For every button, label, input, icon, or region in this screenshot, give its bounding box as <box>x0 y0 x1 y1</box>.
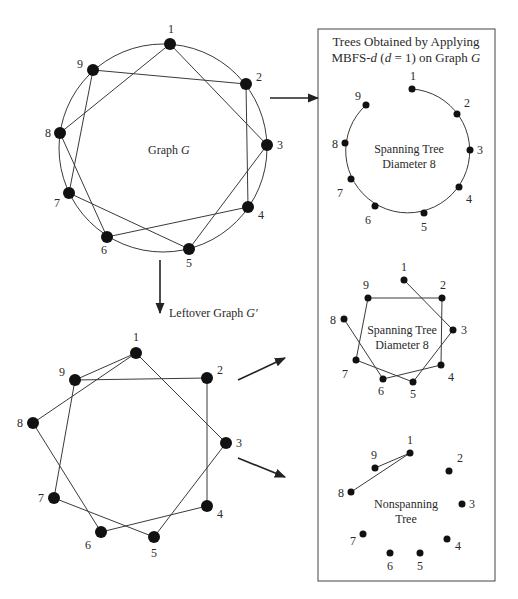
graph-g-node-label-2: 2 <box>256 70 262 84</box>
leftover-node-3 <box>220 437 232 449</box>
tree2-node-2 <box>439 295 446 302</box>
tree1-node-label-2: 2 <box>464 96 470 110</box>
tree2-node-label-7: 7 <box>342 367 348 381</box>
tree1-node-4 <box>456 184 463 191</box>
graph-g-node-label-6: 6 <box>101 243 107 257</box>
tree1-node-label-5: 5 <box>421 220 427 234</box>
leftover-node-label-3: 3 <box>236 436 242 450</box>
tree1-node-5 <box>421 210 428 217</box>
tree2-node-label-8: 8 <box>330 313 336 327</box>
tree1-node-label-8: 8 <box>332 137 338 151</box>
tree3-node-7 <box>360 531 367 538</box>
graph-g-edge-6-4 <box>107 207 248 237</box>
leftover-node-label-5: 5 <box>151 546 157 560</box>
graph-g-node-6 <box>101 231 113 243</box>
graph-g-node-9 <box>87 64 99 76</box>
graph-g-node-label-7: 7 <box>54 196 60 210</box>
tree2-node-label-4: 4 <box>448 370 454 384</box>
tree3-node-6 <box>387 550 394 557</box>
trees-box-title-line2: MBFS-d (d = 1) on Graph G <box>332 50 482 65</box>
tree3-node-9 <box>372 465 379 472</box>
leftover-edge-1-8 <box>33 353 136 423</box>
arrow-to-tree3 <box>238 458 285 477</box>
tree2-node-label-3: 3 <box>461 323 467 337</box>
leftover-node-6 <box>95 526 107 538</box>
leftover-graph: 123456789 <box>17 330 242 560</box>
tree2-node-6 <box>380 376 387 383</box>
tree3-node-label-1: 1 <box>407 433 413 447</box>
leftover-edge-6-4 <box>101 506 207 532</box>
tree2-edge-2-4 <box>441 298 442 365</box>
tree1-node-1 <box>409 86 416 93</box>
graph-g-edge-9-2 <box>93 70 246 84</box>
leftover-node-5 <box>148 531 160 543</box>
tree2-node-label-2: 2 <box>440 278 446 292</box>
tree2-node-label-5: 5 <box>410 387 416 401</box>
tree2-node-7 <box>353 357 360 364</box>
tree3-node-label-9: 9 <box>371 448 377 462</box>
graph-g-node-1 <box>164 38 176 50</box>
tree3-label-line2: Tree <box>395 512 417 526</box>
graph-g-node-label-5: 5 <box>186 256 192 270</box>
tree1-node-8 <box>342 140 349 147</box>
leftover-edge-9-2 <box>75 378 207 380</box>
tree3-node-label-5: 5 <box>417 559 423 573</box>
leftover-edge-8-6 <box>33 423 101 532</box>
leftover-label: Leftover Graph G′ <box>169 306 258 320</box>
tree3-node-3 <box>459 501 466 508</box>
tree3-node-label-6: 6 <box>387 559 393 573</box>
tree1-label-line2: Diameter 8 <box>382 157 436 171</box>
leftover-edge-1-9 <box>75 353 136 380</box>
graph-g-node-5 <box>183 243 195 255</box>
tree3-node-5 <box>417 550 424 557</box>
graph-g-node-4 <box>242 201 254 213</box>
graph-g-node-2 <box>240 78 252 90</box>
diagram-canvas: 123456789 Graph G Leftover Graph G′ 1234… <box>0 0 518 599</box>
leftover-node-label-9: 9 <box>59 365 65 379</box>
graph-g-edge-2-4 <box>246 84 248 207</box>
tree3-node-2 <box>446 468 453 475</box>
graph-g-edge-7-5 <box>69 193 189 249</box>
graph-g-node-label-8: 8 <box>45 126 51 140</box>
leftover-node-label-2: 2 <box>217 363 223 377</box>
tree1-node-label-3: 3 <box>477 143 483 157</box>
tree2-node-5 <box>410 379 417 386</box>
tree2-label-line2: Diameter 8 <box>375 338 429 352</box>
tree3-edge-1-8 <box>351 453 410 492</box>
tree1-node-9 <box>363 102 370 109</box>
tree1-spanning: 123456789 Spanning Tree Diameter 8 <box>332 69 483 234</box>
arrow-to-tree2 <box>238 358 285 380</box>
leftover-node-label-6: 6 <box>85 538 91 552</box>
tree2-node-label-9: 9 <box>363 278 369 292</box>
tree2-node-3 <box>450 327 457 334</box>
tree1-node-label-4: 4 <box>466 192 472 206</box>
leftover-edge-3-5 <box>154 443 226 537</box>
tree3-node-label-3: 3 <box>469 497 475 511</box>
leftover-edge-1-3 <box>136 353 226 443</box>
tree1-node-2 <box>454 111 461 118</box>
tree3-node-label-8: 8 <box>338 486 344 500</box>
tree2-node-1 <box>401 277 408 284</box>
tree1-node-7 <box>348 176 355 183</box>
graph-g-edge-9-7 <box>69 70 93 193</box>
tree1-node-label-1: 1 <box>410 69 416 83</box>
tree3-node-4 <box>444 536 451 543</box>
graph-g-node-8 <box>54 127 66 139</box>
leftover-node-4 <box>201 500 213 512</box>
tree2-node-4 <box>438 362 445 369</box>
tree1-node-label-9: 9 <box>355 89 361 103</box>
tree1-node-label-7: 7 <box>337 186 343 200</box>
graph-g-node-label-9: 9 <box>77 57 83 71</box>
tree3-node-label-7: 7 <box>350 534 356 548</box>
tree1-node-3 <box>467 147 474 154</box>
tree3-nonspanning: 123456789 Nonspanning Tree <box>338 433 475 573</box>
graph-g: 123456789 Graph G <box>45 22 283 270</box>
tree2-node-label-6: 6 <box>378 384 384 398</box>
graph-g-node-label-4: 4 <box>258 208 264 222</box>
graph-g-node-3 <box>261 139 273 151</box>
tree3-node-label-2: 2 <box>457 451 463 465</box>
tree3-node-label-4: 4 <box>455 539 461 553</box>
tree2-spanning: 123456789 Spanning Tree Diameter 8 <box>330 260 467 401</box>
leftover-edges <box>33 353 226 537</box>
graph-g-edge-8-6 <box>60 133 107 237</box>
